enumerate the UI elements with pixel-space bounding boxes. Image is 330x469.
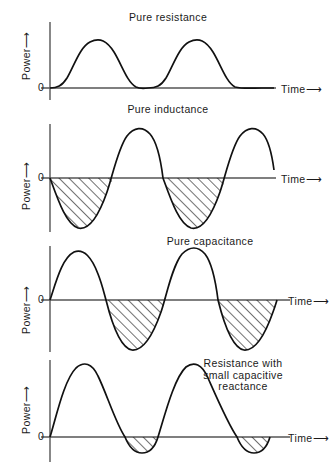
panel-pure-inductance: Pure inductance 0 Power⟶ Time⟶ (0, 100, 330, 232)
caption-line-3: reactance (183, 381, 303, 393)
panel-pure-resistance: Pure resistance 0 Power⟶ Time⟶ (0, 0, 330, 100)
y-axis-label-4: Power⟶ (20, 386, 32, 434)
origin-label-1: 0 (38, 81, 44, 93)
y-axis-label-text-1: Power (20, 48, 32, 80)
y-axis-arrow-2: ⟶ (20, 162, 32, 178)
x-axis-arrow-2: ⟶ (306, 173, 322, 185)
waveform-curve (50, 40, 274, 89)
panel-pure-capacitance-plot (0, 232, 330, 354)
x-axis-label-1: Time⟶ (281, 83, 322, 95)
x-axis-arrow-3: ⟶ (313, 295, 329, 307)
y-axis-label-2: Power⟶ (20, 162, 32, 210)
x-axis-label-text-4: Time (288, 432, 313, 444)
y-axis-arrow-3: ⟶ (20, 286, 32, 302)
x-axis-label-3: Time⟶ (288, 295, 329, 307)
y-axis-label-text-2: Power (20, 178, 32, 210)
x-axis-label-text-2: Time (281, 173, 306, 185)
origin-label-2: 0 (38, 171, 44, 183)
panel-resistance-with-small-capacitive-reactance: Resistance with small capacitive reactan… (0, 354, 330, 469)
power-waveform-figure: Pure resistance 0 Power⟶ Time⟶ Pure indu… (0, 0, 330, 469)
y-axis-label-text-3: Power (20, 302, 32, 334)
origin-label-4: 0 (38, 430, 44, 442)
y-axis-arrow-4: ⟶ (20, 386, 32, 402)
x-axis-arrow-1: ⟶ (306, 83, 322, 95)
panel-caption-pure-capacitance: Pure capacitance (150, 236, 270, 248)
x-axis-label-text-3: Time (288, 295, 313, 307)
panel-caption-resistance-capacitive: Resistance with small capacitive reactan… (183, 358, 303, 393)
panel-pure-inductance-plot (0, 100, 330, 232)
origin-label-3: 0 (38, 293, 44, 305)
y-axis-label-text-4: Power (20, 402, 32, 434)
caption-line-1: Resistance with (183, 358, 303, 370)
y-axis-label-3: Power⟶ (20, 286, 32, 334)
panel-pure-capacitance: Pure capacitance 0 Power⟶ Time⟶ (0, 232, 330, 354)
y-axis-label-1: Power⟶ (20, 32, 32, 80)
y-axis-arrow-1: ⟶ (20, 32, 32, 48)
x-axis-label-2: Time⟶ (281, 173, 322, 185)
panel-caption-pure-resistance: Pure resistance (108, 12, 228, 24)
panel-caption-pure-inductance: Pure inductance (108, 104, 228, 116)
x-axis-label-4: Time⟶ (288, 432, 329, 444)
x-axis-label-text-1: Time (281, 83, 306, 95)
x-axis-arrow-4: ⟶ (313, 432, 329, 444)
